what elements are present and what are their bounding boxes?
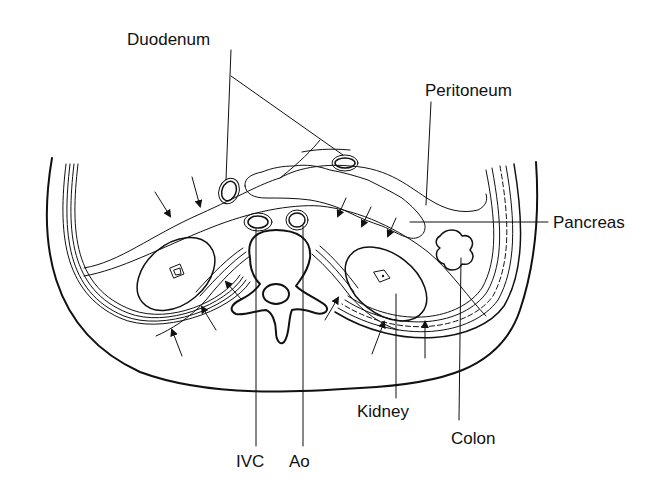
retroperitoneum-cross-section: Duodenum Peritoneum Pancreas Kidney Colo…	[0, 0, 672, 484]
arrow-icon	[338, 198, 346, 216]
pancreas	[245, 165, 425, 238]
colon	[436, 230, 473, 270]
arrow-icon	[192, 177, 200, 206]
label-kidney: Kidney	[357, 402, 409, 421]
arrow-icon	[172, 330, 182, 356]
label-duodenum: Duodenum	[127, 30, 210, 49]
great-vessels	[244, 210, 308, 231]
psoas-muscles	[156, 246, 398, 336]
label-peritoneum: Peritoneum	[425, 81, 512, 100]
body-wall	[47, 158, 537, 392]
arrow-icon	[155, 192, 170, 216]
duodenum	[215, 155, 358, 207]
arrow-icon	[372, 322, 384, 354]
fascial-arrows	[155, 177, 425, 358]
arrow-icon	[202, 307, 216, 330]
labels: Duodenum Peritoneum Pancreas Kidney Colo…	[127, 30, 625, 471]
label-pancreas: Pancreas	[553, 213, 625, 232]
label-ivc: IVC	[236, 452, 264, 471]
label-colon: Colon	[451, 429, 495, 448]
diagram-canvas: Duodenum Peritoneum Pancreas Kidney Colo…	[0, 0, 672, 484]
arrow-icon	[226, 282, 241, 299]
label-aorta: Ao	[289, 452, 310, 471]
